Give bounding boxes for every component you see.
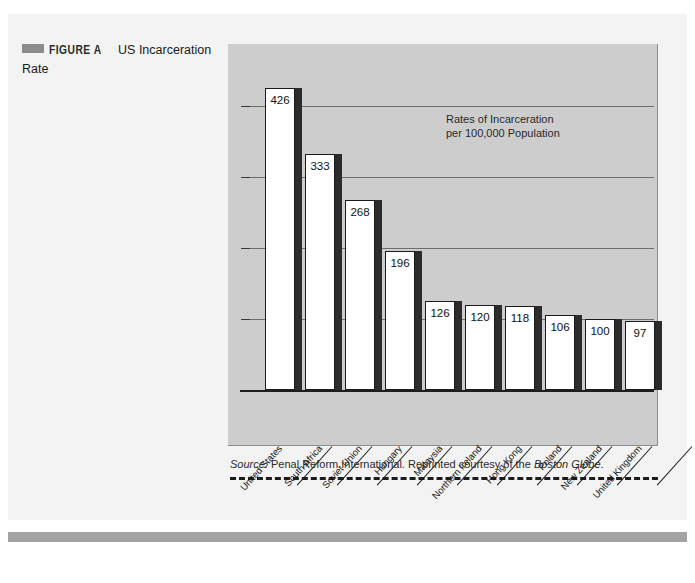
page-root: FIGURE AUS Incarceration Rate R: [0, 0, 695, 583]
tick-300: [241, 177, 250, 178]
bar-value-label: 426: [266, 94, 294, 106]
bar-shadow: [335, 154, 342, 390]
bar-south-africa[interactable]: 333: [305, 154, 335, 390]
leader-line: [657, 446, 693, 485]
gridline-400: [250, 106, 654, 107]
bar-shadow: [295, 88, 302, 390]
bar-value-label: 268: [346, 206, 374, 218]
source-text: Penal Reform International. Reprinted co…: [271, 458, 531, 470]
bar-malaysia[interactable]: 126: [425, 301, 455, 390]
bar-shadow: [535, 306, 542, 390]
bar-shadow: [455, 301, 462, 390]
plot-inner: Rates of Incarceration per 100,000 Popul…: [250, 50, 654, 390]
x-axis-line: [240, 390, 654, 392]
bar-value-label: 333: [306, 160, 334, 172]
bar-northern-ireland[interactable]: 120: [465, 305, 495, 390]
bar-united-states[interactable]: 426: [265, 88, 295, 390]
bar-value-label: 196: [386, 257, 414, 269]
bar-value-label: 126: [426, 307, 454, 319]
source-publication: Boston Globe: [534, 458, 601, 470]
annotation-line-2: per 100,000 Population: [446, 126, 560, 140]
bar-new-zealand[interactable]: 100: [585, 319, 615, 390]
bar-hong-kong[interactable]: 118: [505, 306, 535, 390]
tick-200: [241, 248, 250, 249]
bar-shadow: [575, 315, 582, 390]
bar-value-label: 120: [466, 311, 494, 323]
bar-shadow: [655, 321, 662, 390]
bar-poland[interactable]: 106: [545, 315, 575, 390]
tick-100: [241, 319, 250, 320]
figure-card: FIGURE AUS Incarceration Rate R: [8, 14, 687, 520]
bar-united-kingdom[interactable]: 97: [625, 321, 655, 390]
dashed-divider: [230, 477, 658, 480]
figure-caption: FIGURE AUS Incarceration Rate: [22, 40, 212, 78]
bar-value-label: 100: [586, 325, 614, 337]
figure-label: FIGURE A: [49, 42, 102, 59]
bar-hungary[interactable]: 196: [385, 251, 415, 390]
bar-shadow: [375, 200, 382, 390]
source-period: .: [601, 458, 604, 470]
source-prefix: Source:: [230, 458, 268, 470]
annotation-line-1: Rates of Incarceration: [446, 112, 560, 126]
bar-value-label: 97: [626, 327, 654, 339]
tick-400: [241, 106, 250, 107]
source-note: Source: Penal Reform International. Repr…: [230, 458, 604, 470]
bar-value-label: 106: [546, 321, 574, 333]
bar-shadow: [615, 319, 622, 390]
bar-soviet-union[interactable]: 268: [345, 200, 375, 390]
bar-shadow: [495, 305, 502, 390]
figure-marker-icon: [22, 44, 44, 53]
chart-panel: Rates of Incarceration per 100,000 Popul…: [224, 40, 658, 502]
chart-annotation: Rates of Incarceration per 100,000 Popul…: [446, 112, 560, 140]
bar-shadow: [415, 251, 422, 390]
x-axis-labels: United States South Africa Soviet Union …: [228, 446, 658, 500]
plot-area: Rates of Incarceration per 100,000 Popul…: [228, 44, 658, 446]
bar-value-label: 118: [506, 312, 534, 324]
bottom-rule: [8, 532, 687, 542]
